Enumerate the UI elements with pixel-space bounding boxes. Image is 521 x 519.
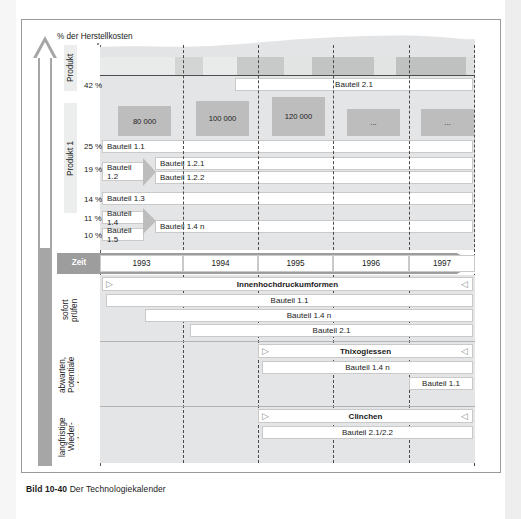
figure-caption: Bild 10-40 Der Technologiekalender [26, 484, 456, 494]
produkt1-bar-bauteil-1-2-1[interactable]: Bauteil 1.2.1 [155, 157, 473, 170]
percent-label-bauteil-1-2: 19 % [84, 165, 102, 174]
production-volume-bar-1994: 100 000 [196, 101, 249, 136]
row-group-produkt1: Produkt 1 [63, 103, 78, 213]
gridline-1995 [258, 45, 259, 250]
range-start-marker-icon-clinchen: ▷ [262, 412, 269, 421]
caption-text: Der Technologiekalender [70, 484, 166, 494]
technology-item-ihu-bauteil-1-4-n[interactable]: Bauteil 1.4 n [145, 309, 473, 322]
technology-bar-innenhochdruckumformen[interactable]: Innenhochdruckumformen [102, 277, 473, 291]
produkt1-bar-bauteil-1-5[interactable]: Bauteil 1.5 [102, 228, 144, 241]
produkt1-bar-bauteil-1-3[interactable]: Bauteil 1.3 [102, 192, 473, 205]
production-volume-bar-1996: ... [347, 109, 400, 136]
up-arrow-icon [33, 36, 57, 466]
year-cell-1995[interactable]: 1995 [258, 255, 333, 272]
range-start-marker-icon-thixo: ▷ [262, 347, 269, 356]
gridline-1997 [409, 45, 410, 250]
page-left-margin [0, 0, 16, 519]
produkt1-bar-bauteil-1-2-2[interactable]: Bauteil 1.2.2 [155, 171, 473, 184]
row-group-sofort-pruefen: sofort prüfen [60, 279, 80, 341]
range-end-marker-icon-thixo: ◁ [461, 347, 468, 356]
year-cell-1996[interactable]: 1996 [333, 255, 409, 272]
group-separator-2 [100, 406, 475, 407]
technology-bar-thixogiessen[interactable]: Thixogiessen [258, 344, 473, 358]
production-volume-bar-1995: 120 000 [272, 97, 325, 136]
produkt1-bar-bauteil-1-4-n[interactable]: Bauteil 1.4 n [155, 220, 473, 233]
produkt1-bar-bauteil-1-1[interactable]: Bauteil 1.1 [102, 140, 473, 153]
technology-item-ihu-bauteil-1-1[interactable]: Bauteil 1.1 [106, 294, 473, 307]
production-volume-bar-1997: ... [421, 109, 474, 136]
technology-item-ihu-bauteil-2-1[interactable]: Bauteil 2.1 [190, 324, 473, 337]
year-cell-1993[interactable]: 1993 [100, 255, 183, 272]
percent-label-bauteil-1-5: 10 % [84, 231, 102, 240]
percent-label-produkt: 42 % [84, 81, 102, 90]
percent-label-bauteil-1-3: 14 % [84, 195, 102, 204]
gridline-1996 [333, 45, 334, 250]
technology-item-thixo-bauteil-1-1[interactable]: Bauteil 1.1 [409, 377, 473, 390]
range-start-marker-icon: ▷ [106, 280, 113, 289]
technology-item-clinchen-bauteil-2-1-2-2[interactable]: Bauteil 2.1/2.2 [262, 426, 473, 439]
year-cell-1994[interactable]: 1994 [183, 255, 258, 272]
range-end-marker-icon-clinchen: ◁ [461, 412, 468, 421]
production-volume-bar-1993: 80 000 [118, 106, 171, 136]
time-axis-label: Zeit [60, 258, 98, 271]
figure-page: % der Herstellkosten Produkt Produkt 1 s… [0, 0, 521, 519]
row-group-produkt: Produkt [63, 45, 78, 91]
technology-bar-clinchen[interactable]: Clinchen [258, 409, 473, 423]
caption-number: Bild 10-40 [26, 484, 67, 494]
cost-band-area [100, 31, 475, 76]
year-cell-1997[interactable]: 1997 [409, 255, 475, 272]
range-end-marker-icon: ◁ [461, 280, 468, 289]
group-separator-1 [100, 341, 475, 342]
technology-item-thixo-bauteil-1-4-n[interactable]: Bauteil 1.4 n [262, 361, 473, 374]
gridline-1994 [183, 45, 184, 250]
produkt1-bar-bauteil-1-4[interactable]: Bauteil 1.4 [102, 211, 144, 224]
percent-label-bauteil-1-4: 11 % [84, 214, 102, 223]
page-right-margin [505, 0, 521, 519]
produkt-bar-bauteil-2-1[interactable]: Bauteil 2.1 [235, 78, 473, 91]
produkt1-bar-bauteil-1-2[interactable]: Bauteil 1.2 [102, 162, 144, 181]
percent-label-bauteil-1-1: 25 % [84, 142, 102, 151]
